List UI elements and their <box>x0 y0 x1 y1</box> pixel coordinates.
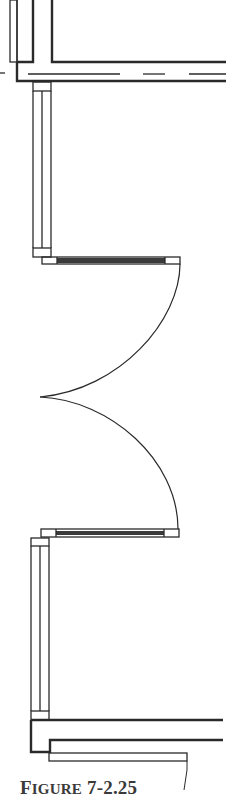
floor-plan-drawing <box>0 0 243 808</box>
upper-door-swing <box>40 264 180 397</box>
caption-smallcaps: IGURE <box>32 781 82 797</box>
top-left-window <box>10 0 17 62</box>
caption-number: 7-2.25 <box>82 777 137 798</box>
upper-door <box>40 257 180 397</box>
upper-window <box>33 82 51 257</box>
figure-caption: FIGURE 7-2.25 <box>20 777 137 799</box>
lower-door-swing <box>40 397 178 529</box>
caption-initial: F <box>20 777 32 798</box>
sill <box>49 753 187 761</box>
lower-window <box>31 538 49 720</box>
lower-door <box>40 397 179 537</box>
top-wall <box>0 0 226 81</box>
leader-line <box>184 761 187 790</box>
